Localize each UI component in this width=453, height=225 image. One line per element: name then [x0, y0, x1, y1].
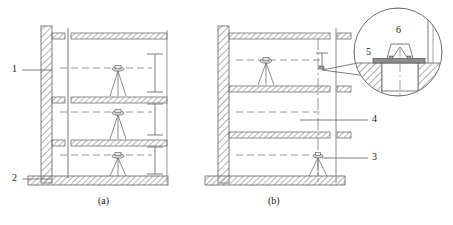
storey-b-3	[236, 153, 327, 177]
foundation-b	[205, 176, 345, 185]
wall-b-left	[218, 26, 229, 183]
foundation-a	[28, 176, 168, 185]
section-drawing	[0, 0, 453, 225]
figure-a-group	[22, 26, 168, 185]
storey-a-2	[60, 104, 163, 139]
instrument-b-1	[258, 58, 274, 86]
callout-label-6: 6	[396, 25, 401, 35]
wall-a-left	[41, 26, 52, 183]
leveling-staff-a-3	[147, 147, 163, 174]
callout-label-4: 4	[372, 114, 377, 124]
storey-a-3	[60, 147, 163, 176]
figure-b-group	[205, 26, 368, 185]
instrument-a-2	[110, 110, 126, 140]
figure-canvas: 1 2 3 4 5 6 (a) (b)	[0, 0, 453, 225]
callout-label-2: 2	[12, 173, 17, 183]
figure-caption-a: (a)	[98, 196, 109, 206]
callout-label-5: 5	[366, 47, 371, 57]
instrument-a-1	[110, 66, 126, 97]
storey-b-1	[236, 53, 328, 85]
callout-label-1: 1	[12, 64, 17, 74]
leveling-staff-a-2	[147, 104, 163, 135]
instrument-b-ground	[309, 153, 327, 177]
instrument-a-3	[110, 153, 126, 177]
floor-slabs-b	[229, 33, 351, 138]
storey-a-1	[60, 54, 163, 96]
callout-label-3: 3	[372, 152, 377, 162]
leveling-staff-a-1	[147, 54, 163, 92]
figure-caption-b: (b)	[268, 196, 280, 206]
floor-slabs-a	[52, 33, 167, 146]
